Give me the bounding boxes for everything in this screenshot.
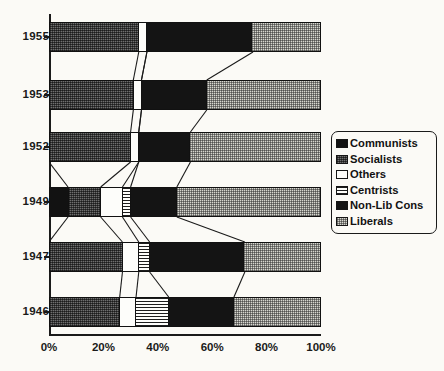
y-axis-label-1952: 1952 [0, 140, 49, 152]
y-axis-label-1949: 1949 [0, 195, 49, 207]
y-axis-label-1953: 1953 [0, 88, 49, 100]
segment-centrists-1946 [136, 298, 168, 326]
segment-socialists-1949 [69, 188, 101, 216]
segment-others-1953 [134, 81, 142, 109]
y-axis-label-1947: 1947 [0, 250, 49, 262]
segment-liberals-1955 [252, 23, 320, 51]
segment-centrists-1947 [139, 243, 150, 271]
segment-liberals-1952 [190, 133, 320, 161]
segment-others-1952 [131, 133, 139, 161]
swatch-centrists-icon [336, 186, 348, 195]
segment-liberals-1946 [234, 298, 320, 326]
segment-liberals-1949 [177, 188, 320, 216]
legend-item-centrists[interactable]: Centrists [336, 183, 433, 198]
x-axis-tick-label-0pct: 0% [41, 341, 58, 353]
segment-liberals-1947 [244, 243, 320, 271]
x-axis-tick-label-20pct: 20% [92, 341, 115, 353]
legend-label-non-lib-cons: Non-Lib Cons [350, 200, 423, 211]
legend-item-non-lib-cons[interactable]: Non-Lib Cons [336, 198, 433, 213]
bar-1952 [49, 132, 321, 162]
segment-others-1955 [139, 23, 147, 51]
swatch-liberals-icon [336, 217, 348, 226]
segment-socialists-1952 [50, 133, 131, 161]
stacked-bar-chart: 195519531952194919471946 0%20%40%60%80%1… [0, 0, 444, 371]
segment-non-lib-cons-1946 [169, 298, 234, 326]
x-axis-tick-label-60pct: 60% [201, 341, 224, 353]
legend-label-communists: Communists [350, 138, 418, 149]
swatch-socialists-icon [336, 155, 348, 164]
x-axis-tick-label-80pct: 80% [255, 341, 278, 353]
legend-label-others: Others [350, 169, 386, 180]
segment-socialists-1947 [50, 243, 123, 271]
legend-item-liberals[interactable]: Liberals [336, 214, 433, 229]
swatch-communists-icon [336, 139, 348, 148]
segment-non-lib-cons-1953 [142, 81, 207, 109]
x-axis-tick-label-40pct: 40% [146, 341, 169, 353]
segment-communists-1949 [50, 188, 69, 216]
x-axis-tick-label-100pct: 100% [306, 341, 335, 353]
segment-liberals-1953 [207, 81, 320, 109]
segment-others-1947 [123, 243, 139, 271]
y-axis-label-1955: 1955 [0, 30, 49, 42]
chart-legend: CommunistsSocialistsOthersCentristsNon-L… [331, 131, 437, 234]
legend-label-socialists: Socialists [350, 154, 402, 165]
segment-non-lib-cons-1952 [139, 133, 190, 161]
segment-socialists-1955 [50, 23, 139, 51]
swatch-others-icon [336, 170, 348, 179]
plot-axes-frame [49, 14, 321, 336]
y-axis-label-1946: 1946 [0, 305, 49, 317]
segment-others-1946 [120, 298, 136, 326]
bar-1949 [49, 187, 321, 217]
legend-item-others[interactable]: Others [336, 167, 433, 182]
segment-non-lib-cons-1947 [150, 243, 245, 271]
segment-socialists-1953 [50, 81, 134, 109]
legend-item-communists[interactable]: Communists [336, 136, 433, 151]
legend-item-socialists[interactable]: Socialists [336, 152, 433, 167]
bar-1947 [49, 242, 321, 272]
segment-others-1949 [101, 188, 123, 216]
segment-non-lib-cons-1949 [131, 188, 177, 216]
segment-socialists-1946 [50, 298, 120, 326]
legend-label-centrists: Centrists [350, 185, 399, 196]
segment-centrists-1949 [123, 188, 131, 216]
bar-1955 [49, 22, 321, 52]
swatch-non-lib-cons-icon [336, 201, 348, 210]
legend-label-liberals: Liberals [350, 216, 393, 227]
bar-1946 [49, 297, 321, 327]
segment-non-lib-cons-1955 [147, 23, 252, 51]
bar-1953 [49, 80, 321, 110]
